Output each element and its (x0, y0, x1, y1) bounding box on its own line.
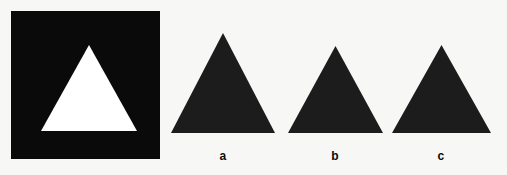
triangle-b-label: b (308, 149, 362, 163)
triangle-c-label: c (414, 149, 468, 163)
black-triangle-icon (171, 33, 275, 133)
black-square-panel (11, 11, 160, 159)
white-triangle-icon (41, 45, 137, 131)
black-triangle-icon (288, 46, 383, 133)
triangle-b-figure (288, 46, 383, 133)
triangle-a-label: a (196, 149, 250, 163)
triangle-c-figure (392, 45, 491, 133)
figure-container: a b c (0, 0, 507, 175)
triangle-a-figure (171, 33, 275, 133)
black-triangle-icon (392, 45, 491, 133)
